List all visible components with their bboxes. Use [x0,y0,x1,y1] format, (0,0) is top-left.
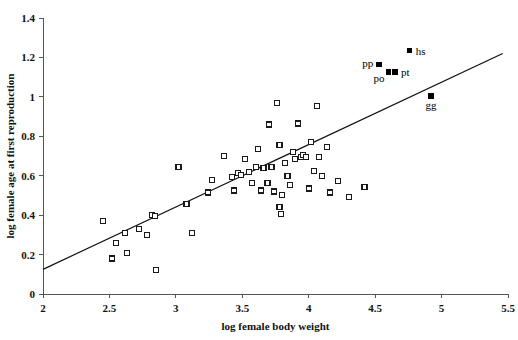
data-point-marker [110,256,115,261]
data-point-marker [277,205,282,210]
data-point-marker [306,186,311,191]
data-point-marker [290,150,295,155]
x-tick-label: 2 [40,302,46,314]
data-point-marker [144,232,149,237]
data-point-marker [335,178,340,183]
data-point-marker [184,202,189,207]
data-point-marker [282,160,287,165]
regression-fit-line [43,53,503,269]
data-point-marker [288,182,293,187]
data-point-marker [100,219,105,224]
data-point-marker [325,145,330,150]
x-tick-label: 4.5 [368,302,382,314]
data-point-marker [346,195,351,200]
data-point-marker [274,100,279,105]
data-point-marker [232,188,237,193]
x-tick-label: 4 [306,302,312,314]
data-point-marker [362,184,367,189]
data-point-marker [209,177,214,182]
data-point-marker [136,226,141,231]
y-axis-title: log female age at first reproduction [4,74,16,239]
axis-titles: log female body weightlog female age at … [4,74,330,332]
data-point-label: pt [401,66,410,78]
data-point-marker [176,164,181,169]
data-point-label: gg [425,99,437,111]
data-point-marker [256,147,261,152]
labeled-data-point-marker [377,62,382,66]
labeled-data-point-marker [393,70,398,75]
data-point-marker [280,193,285,198]
data-point-label: po [373,72,385,84]
data-point-marker [285,173,290,178]
data-point-marker [269,164,274,169]
x-tick-label: 5.5 [501,302,515,314]
scatter-plot-figure: 00.20.40.60.811.21.422.533.544.555.5 ppp… [0,0,518,340]
data-point-label: pp [362,57,374,69]
data-point-marker [258,188,263,193]
data-point-marker [246,169,251,174]
labeled-data-point-marker [407,48,412,53]
data-point-marker [123,230,128,235]
data-point-marker [249,180,254,185]
data-point-marker [272,189,277,194]
data-point-marker [205,190,210,195]
y-tick-label: 0.2 [21,249,35,261]
data-point-marker [242,156,247,161]
data-points [100,100,367,273]
x-tick-label: 2.5 [103,302,117,314]
data-point-marker [296,121,301,126]
x-tick-label: 5 [439,302,445,314]
data-point-marker [277,143,282,148]
data-point-marker [124,250,129,255]
y-tick-label: 0.8 [21,130,35,142]
x-axis-title: log female body weight [222,320,330,332]
data-point-marker [266,122,271,127]
data-point-marker [221,154,226,159]
data-point-marker [261,165,266,170]
data-point-marker [317,154,322,159]
data-point-marker [114,240,119,245]
data-point-marker [253,164,258,169]
y-tick-label: 1.2 [21,51,35,63]
y-tick-label: 0.6 [21,170,35,182]
data-point-marker [152,214,157,219]
labeled-data-point-marker [429,94,434,99]
y-tick-label: 1.4 [21,12,35,24]
x-tick-label: 3 [173,302,179,314]
y-tick-label: 0.4 [21,209,35,221]
data-point-marker [327,190,332,195]
data-point-label: hs [416,45,426,57]
data-point-marker [265,180,270,185]
labeled-data-point-marker [386,70,391,75]
data-point-marker [278,212,283,217]
data-point-marker [153,268,158,273]
labeled-data-points: pppopthsgg [362,45,437,111]
data-point-marker [304,154,309,159]
data-point-marker [314,103,319,108]
data-point-marker [238,172,243,177]
chart-canvas: 00.20.40.60.811.21.422.533.544.555.5 ppp… [0,0,518,340]
data-point-marker [229,174,234,179]
y-tick-label: 0 [30,288,36,300]
data-point-marker [312,168,317,173]
y-tick-label: 1 [30,91,36,103]
x-tick-label: 3.5 [235,302,249,314]
data-point-marker [189,230,194,235]
data-point-marker [309,140,314,145]
regression-line [43,53,503,269]
data-point-marker [293,156,298,161]
data-point-marker [320,173,325,178]
